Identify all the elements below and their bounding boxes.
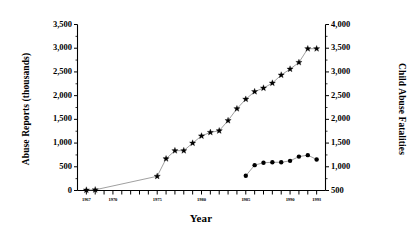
data-point-dot: [270, 160, 274, 164]
data-point-dot: [244, 174, 248, 178]
y-tick-label-right: 3,500: [331, 42, 389, 52]
y-tick-label-right: 4,000: [331, 19, 389, 29]
data-point-dot: [314, 157, 318, 161]
data-point-dot: [297, 154, 301, 158]
y-tick-label-right: 1,500: [331, 137, 389, 147]
y-tick-label-left: 1,500: [14, 113, 72, 123]
data-point-star: [243, 96, 249, 102]
data-point-dot: [306, 153, 310, 157]
data-point-star: [207, 129, 213, 135]
data-point-star: [181, 147, 187, 153]
x-tick-label: 1993: [299, 197, 335, 202]
y-tick-label-right: 2,000: [331, 113, 389, 123]
y-tick-label-left: 2,500: [14, 66, 72, 76]
series-line-1: [86, 49, 316, 190]
y-tick-label-left: 0: [14, 185, 72, 195]
y-tick-label-left: 2,000: [14, 90, 72, 100]
x-tick-label: 1985: [228, 197, 264, 202]
y-tick-label-right: 500: [331, 185, 389, 195]
data-point-dot: [261, 161, 265, 165]
x-tick-label: 1980: [184, 197, 220, 202]
y-tick-label-right: 3,000: [331, 66, 389, 76]
data-point-star: [154, 173, 160, 179]
data-point-dot: [279, 160, 283, 164]
data-point-star: [314, 45, 320, 51]
y-tick-label-right: 2,500: [331, 90, 389, 100]
data-point-dot: [252, 163, 256, 167]
y-tick-label-left: 500: [14, 161, 72, 171]
data-point-star: [260, 85, 266, 91]
y-tick-label-left: 1,000: [14, 137, 72, 147]
y-tick-label-left: 3,000: [14, 42, 72, 52]
data-point-star: [305, 45, 311, 51]
y-tick-label-right: 1,000: [331, 161, 389, 171]
x-tick-label: 1970: [95, 197, 131, 202]
y-tick-label-left: 3,500: [14, 19, 72, 29]
data-point-dot: [288, 159, 292, 163]
x-tick-label: 1975: [139, 197, 175, 202]
